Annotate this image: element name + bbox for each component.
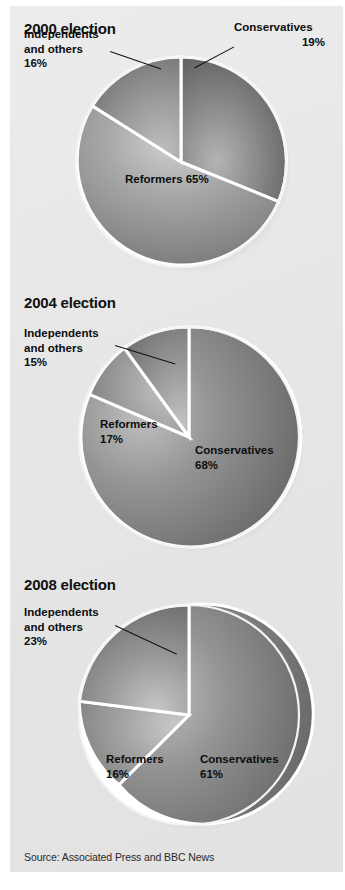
pie-label-independents-2000: Independents and others 16% [24, 27, 99, 71]
pie-label-conservatives-2000-name: Conservatives [234, 21, 313, 33]
pie-label-reformers-2008-value: 16% [106, 768, 129, 780]
pie-label-reformers-2004: Reformers 17% [100, 417, 158, 446]
pie-label-reformers-2004-name: Reformers [100, 418, 158, 430]
pie-chart-2000 [73, 54, 293, 274]
pie-label-independents-2008-value: 23% [24, 635, 47, 647]
pie-label-independents-2004-line1: Independents [24, 327, 99, 339]
pie-label-conservatives-2004-name: Conservatives [195, 444, 274, 456]
pie-label-independents-2008: Independents and others 23% [24, 605, 99, 649]
pie-label-reformers-2008: Reformers 16% [106, 752, 164, 781]
pie-label-conservatives-2000: Conservatives 19% [234, 20, 339, 49]
pie-label-independents-2004-value: 15% [24, 356, 47, 368]
pie-label-independents-2000-line2: and others [24, 43, 83, 55]
pie-label-conservatives-2004: Conservatives 68% [195, 443, 274, 472]
pie-label-reformers-2000: Reformers 65% [125, 172, 209, 187]
pie-label-conservatives-2008-name: Conservatives [200, 753, 279, 765]
pie-label-conservatives-2008-value: 61% [200, 768, 223, 780]
infographic-panel: 2000 election [10, 6, 343, 872]
pie-label-reformers-2008-name: Reformers [106, 753, 164, 765]
pie-label-conservatives-2008: Conservatives 61% [200, 752, 279, 781]
chart-block-2008: 2008 election [10, 572, 343, 862]
chart-block-2004: 2004 election [10, 288, 343, 578]
pie-svg-2000 [73, 54, 293, 274]
pie-label-independents-2000-value: 16% [24, 57, 47, 69]
pie-label-conservatives-2000-value: 19% [234, 35, 339, 50]
pie-svg-2008 [78, 604, 310, 836]
pie-label-conservatives-2004-value: 68% [195, 459, 218, 471]
pie-label-reformers-2000-name: Reformers 65% [125, 173, 209, 185]
chart-block-2000: 2000 election [10, 12, 343, 282]
pie-label-independents-2008-line2: and others [24, 621, 83, 633]
pie-label-independents-2000-line1: Independents [24, 28, 99, 40]
pie-label-independents-2004-line2: and others [24, 342, 83, 354]
chart-title-2004: 2004 election [24, 294, 116, 311]
pie-label-independents-2004: Independents and others 15% [24, 326, 99, 370]
pie-label-reformers-2004-value: 17% [100, 433, 123, 445]
pie-chart-2008 [78, 604, 310, 836]
pie-label-independents-2008-line1: Independents [24, 606, 99, 618]
source-note: Source: Associated Press and BBC News [24, 851, 214, 863]
chart-title-2008: 2008 election [24, 576, 116, 593]
